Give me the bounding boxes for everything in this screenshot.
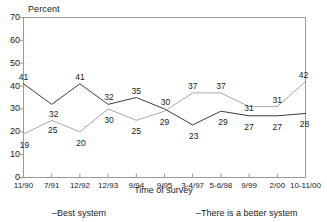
data-point-label: 32 bbox=[104, 93, 113, 102]
data-point-label: 19 bbox=[20, 141, 29, 150]
y-axis-tick-label: 20 bbox=[0, 127, 20, 136]
data-point-label: 29 bbox=[218, 118, 227, 127]
data-point-label: 42 bbox=[299, 71, 308, 80]
data-point-label: 27 bbox=[244, 123, 253, 132]
x-axis-title: Time of survey bbox=[0, 185, 327, 195]
data-point-label: 23 bbox=[189, 132, 198, 141]
data-point-label: 37 bbox=[216, 82, 225, 91]
data-point-label: 28 bbox=[300, 120, 309, 129]
y-axis-tick-label: 70 bbox=[0, 13, 20, 22]
legend-item-better-system: –There is a better system bbox=[196, 209, 298, 218]
data-point-label: 31 bbox=[273, 96, 282, 105]
y-axis-tick-label: 40 bbox=[0, 82, 20, 91]
data-point-label: 20 bbox=[76, 139, 85, 148]
data-point-label: 27 bbox=[273, 123, 282, 132]
y-axis-tick-label: 10 bbox=[0, 150, 20, 159]
legend-item-best-system: –Best system bbox=[52, 209, 106, 218]
line-chart: Percent 706050403020100 11/907/9112/9212… bbox=[0, 0, 327, 222]
data-point-label: 37 bbox=[188, 82, 197, 91]
data-point-label: 35 bbox=[132, 87, 141, 96]
data-point-label: 31 bbox=[244, 104, 253, 113]
data-point-label: 41 bbox=[75, 73, 84, 82]
data-point-label: 32 bbox=[49, 110, 58, 119]
y-axis-tick-label: 30 bbox=[0, 104, 20, 113]
y-axis-tick-label: 60 bbox=[0, 36, 20, 45]
data-point-label: 30 bbox=[104, 116, 113, 125]
data-point-label: 29 bbox=[160, 118, 169, 127]
data-point-label: 25 bbox=[48, 126, 57, 135]
y-axis-tick-label: 50 bbox=[0, 59, 20, 68]
data-point-label: 41 bbox=[19, 73, 28, 82]
data-point-label: 25 bbox=[132, 127, 141, 136]
data-point-label: 30 bbox=[161, 98, 170, 107]
